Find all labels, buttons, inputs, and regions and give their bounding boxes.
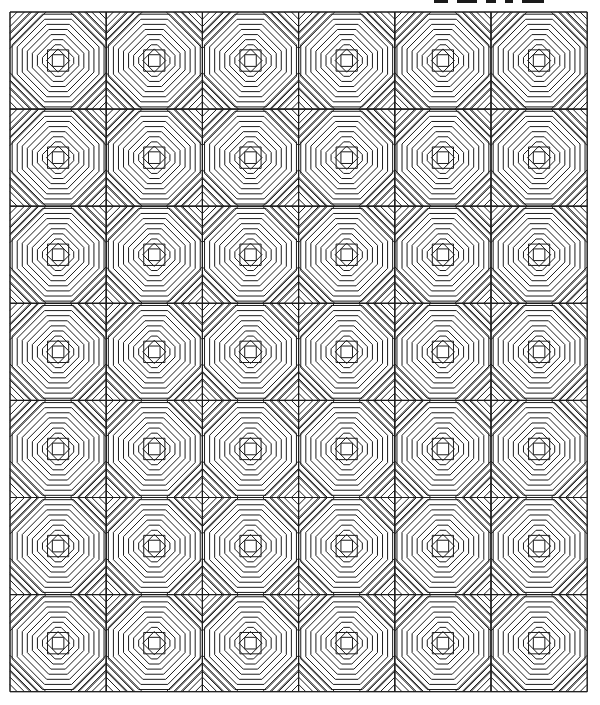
- quilt-block-r4-c5: [491, 400, 587, 497]
- quilt-block-r1-c2: [202, 109, 298, 206]
- quilt-block-r0-c5: [491, 12, 587, 109]
- quilt-block-r3-c3: [299, 303, 395, 400]
- quilt-block-r0-c2: [202, 12, 298, 109]
- quilt-block-r5-c4: [395, 498, 491, 595]
- quilt-block-r2-c3: [299, 206, 395, 303]
- quilt-block-r4-c2: [202, 400, 298, 497]
- quilt-block-r0-c1: [106, 12, 202, 109]
- quilt-block-r2-c4: [395, 206, 491, 303]
- quilt-block-r1-c5: [491, 109, 587, 206]
- quilt-block-r6-c3: [299, 595, 395, 692]
- quilt-block-r6-c1: [106, 595, 202, 692]
- quilt-block-r0-c0: [10, 12, 106, 109]
- quilt-block-r3-c4: [395, 303, 491, 400]
- pineapple-quilt-pattern: [0, 0, 600, 705]
- quilt-block-r1-c3: [299, 109, 395, 206]
- quilt-block-r6-c0: [10, 595, 106, 692]
- quilt-block-r3-c0: [10, 303, 106, 400]
- quilt-block-r4-c0: [10, 400, 106, 497]
- quilt-block-r4-c1: [106, 400, 202, 497]
- quilt-block-r2-c2: [202, 206, 298, 303]
- quilt-block-r5-c5: [491, 498, 587, 595]
- quilt-block-r6-c5: [491, 595, 587, 692]
- quilt-block-r1-c1: [106, 109, 202, 206]
- quilt-block-r4-c4: [395, 400, 491, 497]
- quilt-block-r5-c3: [299, 498, 395, 595]
- quilt-block-r4-c3: [299, 400, 395, 497]
- quilt-block-r3-c1: [106, 303, 202, 400]
- quilt-block-r1-c0: [10, 109, 106, 206]
- quilt-block-r5-c2: [202, 498, 298, 595]
- quilt-block-r0-c3: [299, 12, 395, 109]
- quilt-block-r6-c4: [395, 595, 491, 692]
- quilt-block-r6-c2: [202, 595, 298, 692]
- quilt-block-r3-c2: [202, 303, 298, 400]
- quilt-block-r3-c5: [491, 303, 587, 400]
- quilt-block-r5-c0: [10, 498, 106, 595]
- quilt-block-r5-c1: [106, 498, 202, 595]
- quilt-block-r1-c4: [395, 109, 491, 206]
- quilt-block-r0-c4: [395, 12, 491, 109]
- quilt-block-r2-c1: [106, 206, 202, 303]
- quilt-block-r2-c0: [10, 206, 106, 303]
- quilt-block-r2-c5: [491, 206, 587, 303]
